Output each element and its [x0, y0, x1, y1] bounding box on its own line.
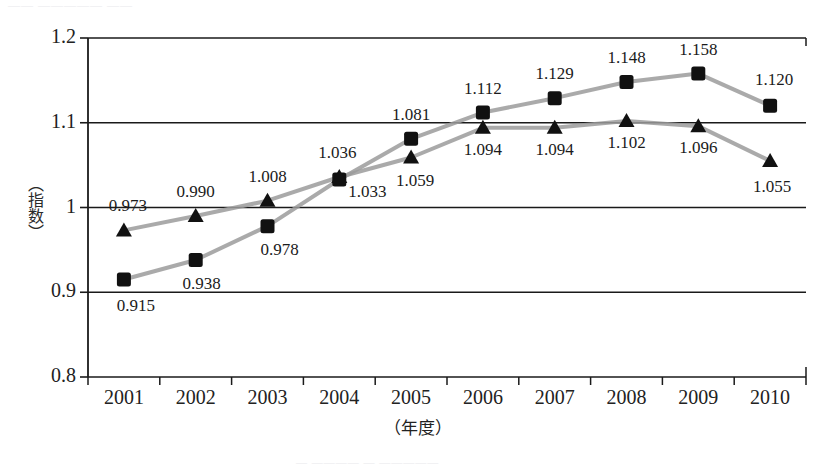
data-label-square-2010: 1.120	[748, 70, 800, 90]
data-label-triangle-2002: 0.990	[170, 182, 222, 202]
marker-square	[620, 75, 634, 89]
series-line-square	[124, 74, 770, 280]
x-tick-label-2005: 2005	[371, 386, 451, 409]
x-tick-label-2009: 2009	[658, 386, 738, 409]
data-label-square-2008: 1.148	[601, 48, 653, 68]
marker-square	[261, 219, 275, 233]
x-tick-label-2006: 2006	[443, 386, 523, 409]
x-tick-label-2002: 2002	[156, 386, 236, 409]
data-label-triangle-2009: 1.096	[672, 138, 724, 158]
data-label-square-2009: 1.158	[672, 40, 724, 60]
data-label-triangle-2003: 1.008	[242, 167, 294, 187]
marker-square	[476, 106, 490, 120]
data-label-square-2002: 0.938	[176, 274, 228, 294]
y-tick-label: 0.9	[20, 279, 76, 302]
data-label-square-2005: 1.081	[385, 105, 437, 125]
marker-square	[404, 132, 418, 146]
x-tick-label-2004: 2004	[299, 386, 379, 409]
x-tick-label-2010: 2010	[730, 386, 810, 409]
x-tick-label-2001: 2001	[84, 386, 164, 409]
y-tick-label: 1	[20, 195, 76, 218]
data-label-square-2003: 0.978	[254, 240, 306, 260]
marker-square	[189, 253, 203, 267]
marker-square	[763, 99, 777, 113]
marker-square	[691, 67, 705, 81]
y-tick-label: 1.1	[20, 110, 76, 133]
data-label-triangle-2004: 1.036	[311, 143, 363, 163]
x-tick-label-2007: 2007	[515, 386, 595, 409]
x-tick-label-2008: 2008	[587, 386, 667, 409]
data-label-triangle-2007: 1.094	[529, 140, 581, 160]
y-tick-label: 0.8	[20, 364, 76, 387]
marker-square	[117, 273, 131, 287]
data-label-triangle-2005: 1.059	[389, 171, 441, 191]
y-tick-label: 1.2	[20, 25, 76, 48]
data-label-square-2004: 1.033	[341, 182, 393, 202]
data-label-square-2006: 1.112	[457, 79, 509, 99]
marker-square	[548, 91, 562, 105]
data-label-triangle-2008: 1.102	[601, 133, 653, 153]
data-label-triangle-2001: 0.973	[102, 196, 154, 216]
index-trend-line-chart: —— ————— —— — ———— — ————— （指数） （年度） 0.8…	[0, 0, 836, 474]
x-tick-label-2003: 2003	[228, 386, 308, 409]
data-label-square-2007: 1.129	[529, 64, 581, 84]
data-label-triangle-2006: 1.094	[457, 140, 509, 160]
data-label-square-2001: 0.915	[110, 296, 162, 316]
data-label-triangle-2010: 1.055	[746, 177, 798, 197]
